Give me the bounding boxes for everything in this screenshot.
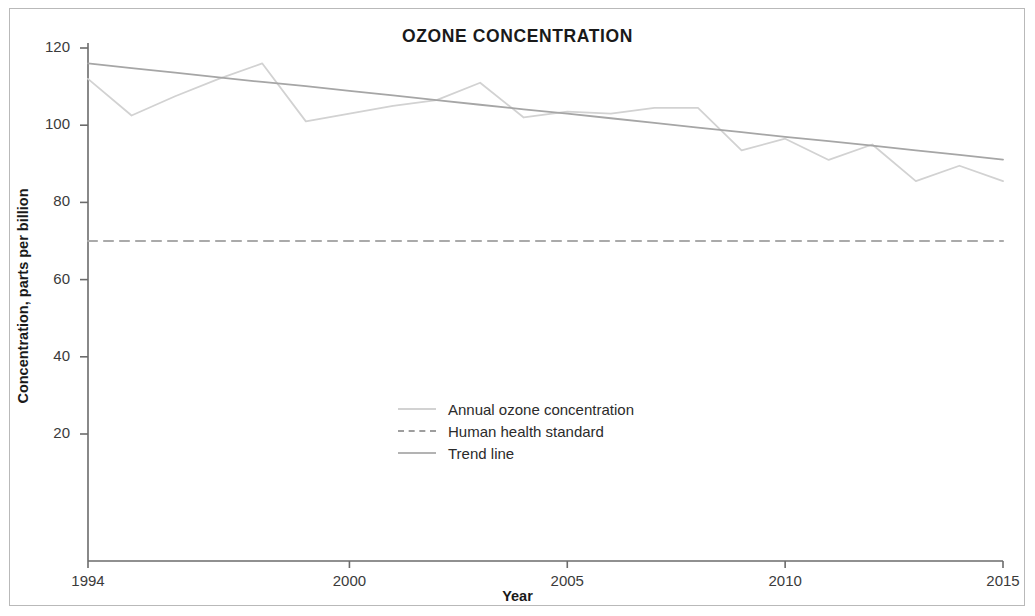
y-tick-label: 80 (10, 192, 70, 209)
legend-item-human-health-standard: Human health standard (398, 420, 634, 442)
y-tick-label: 20 (10, 424, 70, 441)
x-tick-label: 2005 (527, 572, 607, 589)
y-tick-label: 120 (10, 38, 70, 55)
series-line-annual-ozone-concentration (88, 63, 1003, 181)
x-tick-label: 2015 (963, 572, 1035, 589)
legend-label: Trend line (448, 445, 514, 462)
chart-legend: Annual ozone concentration Human health … (398, 398, 634, 464)
legend-label: Annual ozone concentration (448, 401, 634, 418)
legend-item-annual-ozone-concentration: Annual ozone concentration (398, 398, 634, 420)
axes-group (80, 43, 1003, 568)
legend-swatch-solid-light-icon (398, 403, 436, 415)
y-tick-label: 60 (10, 270, 70, 287)
legend-swatch-solid-gray-icon (398, 447, 436, 459)
y-tick-label: 100 (10, 115, 70, 132)
chart-plot-area (0, 0, 1035, 616)
series-line-trend-line (88, 63, 1003, 159)
legend-swatch-dashed-icon (398, 425, 436, 437)
x-tick-label: 2010 (745, 572, 825, 589)
x-tick-label: 2000 (309, 572, 389, 589)
x-tick-label: 1994 (48, 572, 128, 589)
chart-figure: OZONE CONCENTRATION Concentration, parts… (0, 0, 1035, 616)
y-tick-label: 40 (10, 347, 70, 364)
data-series-group (88, 63, 1003, 241)
legend-item-trend-line: Trend line (398, 442, 634, 464)
legend-label: Human health standard (448, 423, 604, 440)
